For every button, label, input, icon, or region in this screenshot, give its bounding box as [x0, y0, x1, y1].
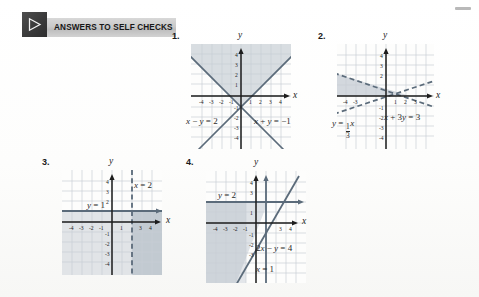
- figure-3-equation-y: y = 1: [87, 200, 105, 210]
- answers-banner: ANSWERS TO SELF CHECKS: [26, 18, 176, 37]
- svg-text:-1: -1: [234, 105, 239, 111]
- svg-text:4: 4: [149, 225, 152, 231]
- svg-text:4: 4: [380, 53, 383, 59]
- figure-3: 3.: [42, 153, 187, 288]
- svg-text:2: 2: [235, 72, 238, 78]
- svg-text:-1: -1: [379, 105, 384, 111]
- play-triangle-icon: [22, 12, 47, 37]
- figure-1-plot: -4-3 -2-1 12 34 43 21 -1-2 -3-4: [191, 44, 291, 149]
- svg-text:-4: -4: [343, 99, 348, 105]
- svg-text:-3: -3: [234, 125, 239, 131]
- svg-text:2: 2: [404, 99, 407, 105]
- svg-text:-1: -1: [99, 225, 104, 231]
- svg-text:-4: -4: [105, 261, 110, 267]
- svg-text:-4: -4: [199, 99, 204, 105]
- svg-text:-3: -3: [249, 252, 254, 258]
- figure-4-number: 4.: [186, 157, 194, 167]
- svg-text:3: 3: [235, 62, 238, 68]
- figure-3-number: 3.: [42, 157, 50, 167]
- svg-text:-4: -4: [234, 135, 239, 141]
- figure-3-equation-x: x = 2: [134, 180, 152, 190]
- page-corner-mark: [455, 7, 471, 10]
- svg-text:-1: -1: [249, 232, 254, 238]
- svg-text:-3: -3: [353, 99, 358, 105]
- svg-text:2: 2: [106, 199, 109, 205]
- svg-text:-1: -1: [105, 231, 110, 237]
- svg-text:-3: -3: [79, 225, 84, 231]
- figure-2-equation-fraction: y = 13x: [332, 118, 354, 139]
- svg-text:-2: -2: [105, 241, 110, 247]
- figure-4-equation-x: x = 1: [256, 264, 274, 274]
- svg-text:-3: -3: [223, 226, 228, 232]
- svg-text:1: 1: [235, 82, 238, 88]
- svg-text:4: 4: [106, 179, 109, 185]
- svg-text:3: 3: [250, 190, 253, 196]
- figure-4-x-axis-label: x: [302, 216, 306, 226]
- svg-text:-3: -3: [209, 99, 214, 105]
- svg-text:3: 3: [279, 226, 282, 232]
- answers-banner-label: ANSWERS TO SELF CHECKS: [54, 23, 173, 32]
- figure-3-x-axis-label: x: [166, 215, 170, 225]
- svg-text:3: 3: [269, 99, 272, 105]
- figure-1-y-axis-label: y: [238, 30, 242, 40]
- svg-text:-3: -3: [105, 251, 110, 257]
- svg-text:4: 4: [289, 226, 292, 232]
- svg-text:3: 3: [414, 99, 417, 105]
- figure-1: 1.: [172, 28, 312, 153]
- figure-2-y-axis-label: y: [383, 30, 387, 40]
- svg-text:-3: -3: [379, 125, 384, 131]
- svg-text:-1: -1: [229, 99, 234, 105]
- svg-text:-2: -2: [249, 242, 254, 248]
- svg-text:1: 1: [250, 210, 253, 216]
- svg-text:-2: -2: [234, 115, 239, 121]
- figure-4-equation-y: y = 2: [218, 190, 236, 200]
- svg-text:-1: -1: [243, 226, 248, 232]
- figure-2: 2.: [318, 28, 458, 153]
- svg-text:4: 4: [235, 52, 238, 58]
- figure-4-y-axis-label: y: [254, 157, 258, 167]
- svg-text:1: 1: [394, 99, 397, 105]
- svg-text:4: 4: [279, 99, 282, 105]
- svg-text:-4: -4: [213, 226, 218, 232]
- svg-text:-4: -4: [379, 135, 384, 141]
- svg-text:3: 3: [106, 189, 109, 195]
- figure-2-number: 2.: [318, 31, 326, 41]
- svg-text:3: 3: [139, 225, 142, 231]
- svg-text:1: 1: [120, 225, 123, 231]
- figure-4-equation-slant: 2x − y = 4: [256, 243, 292, 253]
- svg-text:-2: -2: [89, 225, 94, 231]
- svg-text:-4: -4: [69, 225, 74, 231]
- figure-1-equation-right: x + y = −1: [254, 116, 291, 126]
- svg-text:2: 2: [380, 73, 383, 79]
- svg-text:1: 1: [249, 99, 252, 105]
- svg-text:-2: -2: [219, 99, 224, 105]
- svg-text:4: 4: [250, 180, 253, 186]
- svg-text:2: 2: [259, 99, 262, 105]
- figure-1-number: 1.: [172, 31, 180, 41]
- page-background: ANSWERS TO SELF CHECKS 1.: [0, 0, 479, 297]
- figure-2-equation-right: x + 3y = 3: [384, 112, 420, 122]
- figure-4: 4.: [186, 153, 336, 293]
- svg-text:-2: -2: [233, 226, 238, 232]
- figure-3-y-axis-label: y: [109, 156, 113, 166]
- svg-text:3: 3: [380, 63, 383, 69]
- figure-1-equation-left: x − y = 2: [186, 116, 218, 126]
- figure-2-x-axis-label: x: [436, 90, 440, 100]
- figure-1-x-axis-label: x: [293, 90, 297, 100]
